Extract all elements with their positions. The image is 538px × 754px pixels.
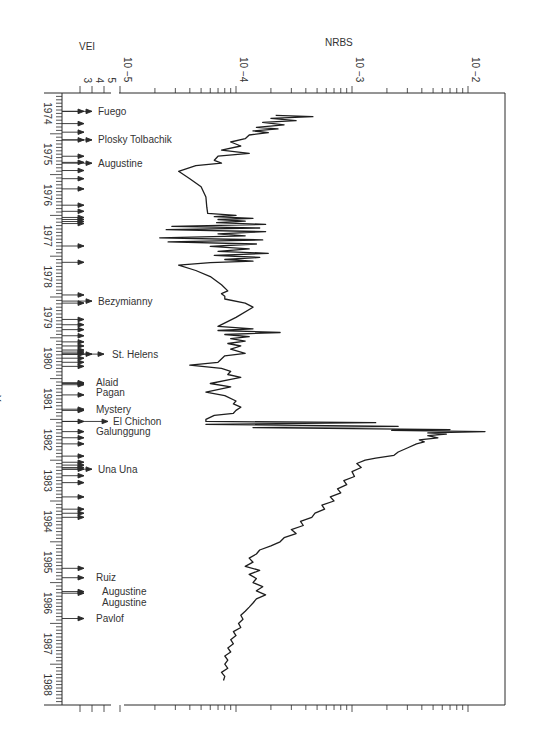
volcano-label: Bezymianny [98,296,152,307]
arrow-head-icon [78,244,84,249]
year-tick-label: 1988 [42,673,53,696]
volcano-label: Ruiz [96,572,116,583]
arrow-head-icon [78,340,84,345]
year-tick-label: 1976 [42,184,53,207]
vei-axis-title: VEI [79,41,95,52]
x-axis-title: NRBS [325,37,353,48]
arrow-head-icon [78,616,84,621]
arrow-head-icon [78,344,84,349]
arrow-head-icon [86,138,92,143]
arrow-head-icon [78,187,84,192]
arrow-head-icon [78,293,84,298]
arrow-head-icon [78,515,84,520]
arrow-head-icon [78,511,84,516]
arrow-head-icon [78,480,84,485]
year-tick-label: 1987 [42,633,53,656]
log-tick-label: 10 −4 [238,57,249,83]
year-tick-label: 1982 [42,429,53,452]
arrow-head-icon [78,333,84,338]
volcano-label: Fuego [98,106,127,117]
arrow-head-icon [86,467,92,472]
arrow-head-icon [78,393,84,398]
arrow-head-icon [78,435,84,440]
arrow-head-icon [78,364,84,369]
arrow-head-icon [78,260,84,265]
year-tick-label: 1986 [42,592,53,615]
arrow-head-icon [78,473,84,478]
y-axis-title: Year [0,395,2,415]
volcano-label: St. Helens [112,349,158,360]
log-tick-label: 10 −3 [354,57,365,83]
log-tick-label: 10 −5 [122,57,133,83]
vei-tick-label: 3 [82,77,93,83]
year-tick-label: 1984 [42,510,53,533]
arrow-head-icon [78,356,84,361]
volcano-label: Augustine [98,158,143,169]
arrow-head-icon [78,209,84,214]
arrow-head-icon [78,130,84,135]
arrow-head-icon [86,161,92,166]
arrow-head-icon [78,317,84,322]
year-tick-label: 1974 [42,102,53,125]
year-tick-label: 1981 [42,388,53,411]
nrbs-volcano-chart: 34510 −510 −410 −310 −219741975197619771… [0,0,538,754]
year-tick-label: 1983 [42,469,53,492]
year-tick-label: 1975 [42,143,53,166]
arrow-head-icon [78,327,84,332]
year-tick-label: 1977 [42,225,53,248]
arrow-head-icon [78,203,84,208]
arrow-head-icon [78,495,84,500]
volcano-label: Augustine [102,597,147,608]
log-tick-label: 10 −2 [470,57,481,83]
arrow-head-icon [86,299,92,304]
arrow-head-icon [78,429,84,434]
arrow-head-icon [78,160,84,165]
arrow-head-icon [78,507,84,512]
volcano-label: Mystery [96,404,131,415]
year-tick-label: 1985 [42,551,53,574]
vei-tick-label: 5 [106,77,117,83]
volcano-label: Plosky Tolbachik [98,134,173,145]
arrow-head-icon [78,322,84,327]
arrow-head-icon [98,352,104,357]
arrow-head-icon [78,168,84,173]
volcano-annotations: FuegoPlosky TolbachikAugustineBezymianny… [96,106,173,624]
volcano-label: Pavlof [96,613,124,624]
year-tick-label: 1979 [42,306,53,329]
arrow-head-icon [78,575,84,580]
arrow-head-icon [78,566,84,571]
arrow-head-icon [78,454,84,459]
arrow-head-icon [78,442,84,447]
volcano-label: Augustine [102,586,147,597]
year-tick-label: 1978 [42,265,53,288]
arrow-head-icon [78,360,84,365]
volcano-label: Pagan [96,387,125,398]
arrow-head-icon [78,176,84,181]
year-tick-label: 1980 [42,347,53,370]
arrow-head-icon [86,109,92,114]
arrow-head-icon [78,121,84,126]
arrow-head-icon [78,154,84,159]
vei-tick-label: 4 [94,77,105,83]
volcano-label: Galunggung [96,426,151,437]
nrbs-series-line [160,115,485,680]
arrow-head-icon [102,419,108,424]
volcano-label: Una Una [98,464,138,475]
eruption-markers [62,109,108,621]
